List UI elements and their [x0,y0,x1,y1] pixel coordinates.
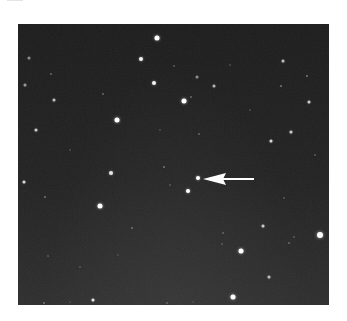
arrow-head [203,173,226,185]
top-edge-artifact [7,0,23,1]
star-field-photo [18,24,329,305]
arrow-pointer-icon [18,24,329,305]
arrow-shaft [223,178,254,180]
